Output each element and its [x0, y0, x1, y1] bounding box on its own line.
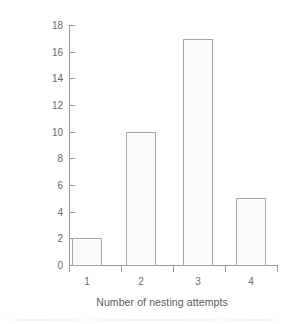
bar-series: [73, 39, 266, 265]
y-tick-label-18: 18: [52, 20, 64, 31]
y-tick-label-16: 16: [52, 47, 64, 58]
y-tick-label-12: 12: [52, 100, 64, 111]
x-axis-title: Number of nesting attempts: [40, 296, 284, 308]
y-tick-label-4: 4: [57, 207, 63, 218]
x-tick-label-3: 3: [195, 276, 201, 287]
x-tick-label-2: 2: [138, 276, 144, 287]
bar-chart-figure: Number of pairs 0 2 4 6 8 10 12 14 16: [0, 0, 284, 324]
x-axis-ticks: [70, 266, 278, 272]
x-tick-label-4: 4: [248, 276, 254, 287]
y-tick-label-2: 2: [57, 233, 63, 244]
plot-area: 0 2 4 6 8 10 12 14 16 18: [0, 0, 284, 324]
y-tick-label-8: 8: [57, 153, 63, 164]
y-tick-label-14: 14: [52, 73, 64, 84]
x-axis-tick-labels: 1 2 3 4: [84, 276, 254, 287]
x-tick-label-1: 1: [84, 276, 90, 287]
bar-1: [73, 239, 102, 266]
bar-3: [184, 39, 213, 265]
y-axis-ticks: 0 2 4 6 8 10 12 14 16 18: [52, 20, 75, 271]
y-tick-label-10: 10: [52, 127, 64, 138]
bar-2: [127, 132, 156, 265]
y-tick-label-6: 6: [57, 180, 63, 191]
y-tick-label-0: 0: [57, 260, 63, 271]
bar-4: [237, 199, 266, 266]
scan-artifact-line: [0, 319, 284, 321]
